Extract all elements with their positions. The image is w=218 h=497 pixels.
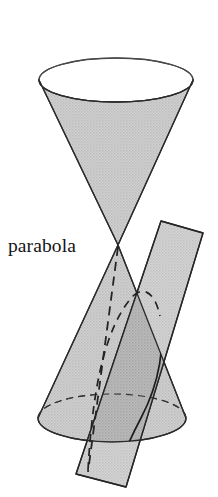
conic-section-diagram: parabola (0, 0, 218, 497)
parabola-label: parabola (8, 235, 76, 256)
parabola-cone-figure: parabola (0, 0, 218, 497)
